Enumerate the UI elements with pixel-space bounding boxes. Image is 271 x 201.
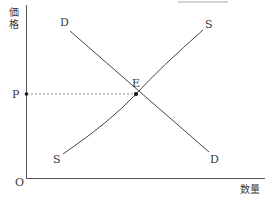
- equilibrium-label: E: [132, 77, 140, 90]
- demand-label-top: D: [60, 16, 69, 29]
- price-label: P: [12, 88, 20, 101]
- y-axis-label-char-2: 格: [9, 18, 19, 30]
- origin-label: O: [15, 176, 24, 189]
- demand-label-bottom: D: [210, 153, 219, 166]
- equilibrium-point: [134, 92, 138, 96]
- supply-curve: [63, 30, 203, 154]
- x-axis-label: 数量: [240, 183, 260, 195]
- supply-label-bottom: S: [53, 153, 61, 166]
- supply-demand-diagram: 価 格 数量 O P D D S S E: [0, 0, 271, 201]
- top-artifact-bar: [178, 1, 228, 3]
- supply-label-top: S: [205, 18, 213, 31]
- y-axis-label-char-1: 価: [9, 6, 19, 18]
